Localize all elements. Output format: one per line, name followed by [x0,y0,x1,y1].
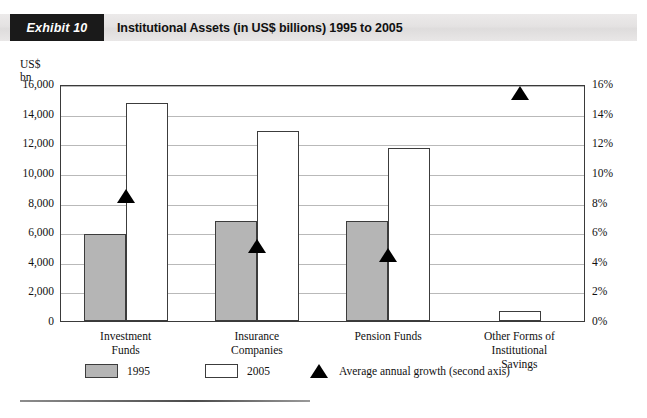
category-label-line: Investment [60,329,191,343]
legend-swatch-1995 [85,364,118,378]
exhibit-title: Institutional Assets (in US$ billions) 1… [117,14,402,41]
growth-marker-triangle [248,239,266,253]
y2-axis-tick-label: 4% [592,256,636,268]
y2-axis-tick-label: 10% [592,167,636,179]
category-label-line: Companies [191,343,322,357]
y-axis-title-line1: US$ [20,58,40,71]
y-axis-tick-label: 4,000 [2,256,54,268]
x-axis-category-label: InsuranceCompanies [191,329,322,357]
gridline [61,86,584,87]
plot-area [60,85,585,322]
legend-item: Average annual growth (second axis) [310,364,510,378]
bar-1995 [346,221,388,321]
chart-area: US$ bn 02,0004,0006,0008,00010,00012,000… [0,48,647,393]
y2-axis-tick-label: 14% [592,108,636,120]
bar-2005 [126,103,168,321]
y2-axis-tick-label: 2% [592,285,636,297]
y2-axis-tick-label: 12% [592,137,636,149]
category-label-line: Funds [60,343,191,357]
legend-triangle-icon [310,364,328,378]
x-axis-category-label: InvestmentFunds [60,329,191,357]
y-axis-tick-label: 8,000 [2,197,54,209]
y-axis-tick-label: 16,000 [2,78,54,90]
y-axis-tick-label: 2,000 [2,285,54,297]
category-label-line: Other Forms of [454,329,585,343]
growth-marker-triangle [117,189,135,203]
growth-marker-triangle [379,248,397,262]
bar-1995 [84,234,126,321]
y2-axis-tick-label: 8% [592,197,636,209]
footer-divider [20,400,310,402]
exhibit-number-tag: Exhibit 10 [10,14,104,41]
exhibit-number-label: Exhibit 10 [26,21,87,35]
category-label-line: Insurance [191,329,322,343]
chart-legend: 19952005Average annual growth (second ax… [0,360,647,384]
y2-axis-tick-label: 0% [592,315,636,327]
bar-1995 [215,221,257,321]
x-axis-category-label: Pension Funds [323,329,454,343]
category-label-line: Pension Funds [323,329,454,343]
legend-label: 1995 [127,365,150,377]
y2-axis-tick-label: 6% [592,226,636,238]
y-axis-tick-label: 14,000 [2,108,54,120]
bar-2005 [257,131,299,321]
legend-label: Average annual growth (second axis) [339,365,510,377]
y2-axis-tick-label: 16% [592,78,636,90]
legend-item: 2005 [205,364,270,378]
category-label-line: Institutional [454,343,585,357]
growth-marker-triangle [511,86,529,100]
legend-label: 2005 [247,365,270,377]
bar-2005 [388,148,430,321]
legend-item: 1995 [85,364,150,378]
bar-2005 [499,311,541,321]
y-axis-tick-label: 6,000 [2,226,54,238]
legend-swatch-2005 [205,364,238,378]
y-axis-tick-label: 0 [2,315,54,327]
y-axis-tick-label: 12,000 [2,137,54,149]
y-axis-tick-label: 10,000 [2,167,54,179]
